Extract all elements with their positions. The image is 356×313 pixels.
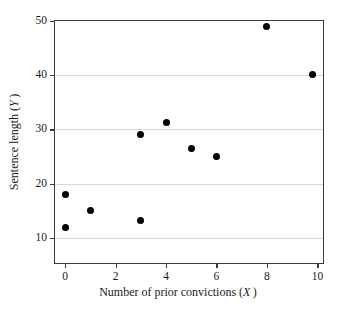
x-axis-tick-mark xyxy=(317,263,318,268)
gridline xyxy=(55,238,323,239)
data-point xyxy=(62,191,69,198)
gridline xyxy=(55,129,323,130)
scatter-plot-figure: 1020304050 0246810 Sentence length (Y ) … xyxy=(0,0,356,313)
y-axis-title: Sentence length (Y ) xyxy=(8,94,20,190)
x-axis-tick-label: 6 xyxy=(214,271,220,283)
data-point xyxy=(213,153,220,160)
x-axis-tick-label: 2 xyxy=(113,271,119,283)
y-axis-tick-mark xyxy=(50,184,55,185)
y-axis-tick-label: 50 xyxy=(36,15,48,27)
data-point xyxy=(309,71,316,78)
y-axis-tick-label: 20 xyxy=(36,178,48,190)
x-axis-tick-mark xyxy=(216,263,217,268)
x-axis-title: Number of prior convictions (X ) xyxy=(0,286,356,298)
data-point xyxy=(163,119,170,126)
x-axis-tick-mark xyxy=(166,263,167,268)
x-axis-tick-label: 10 xyxy=(312,271,324,283)
plot-area: 1020304050 0246810 xyxy=(54,20,324,264)
gridline xyxy=(55,184,323,185)
data-point xyxy=(263,23,270,30)
y-axis-tick-mark xyxy=(50,21,55,22)
axis-variable-symbol: X xyxy=(243,285,250,299)
y-axis-tick-label: 40 xyxy=(36,69,48,81)
x-axis-tick-label: 8 xyxy=(264,271,270,283)
data-point xyxy=(137,131,144,138)
y-axis-tick-mark xyxy=(50,75,55,76)
data-point xyxy=(87,207,94,214)
y-axis-tick-mark xyxy=(50,129,55,130)
data-point xyxy=(188,145,195,152)
x-axis-tick-label: 4 xyxy=(163,271,169,283)
y-axis-tick-label: 10 xyxy=(36,232,48,244)
x-axis-tick-mark xyxy=(267,263,268,268)
x-axis-tick-mark xyxy=(65,263,66,268)
x-axis-tick-label: 0 xyxy=(62,271,68,283)
gridline xyxy=(55,75,323,76)
x-axis-tick-mark xyxy=(116,263,117,268)
y-axis-tick-mark xyxy=(50,238,55,239)
y-axis-tick-label: 30 xyxy=(36,124,48,136)
data-point xyxy=(137,217,144,224)
data-point xyxy=(62,224,69,231)
axis-variable-symbol: Y xyxy=(7,100,21,107)
